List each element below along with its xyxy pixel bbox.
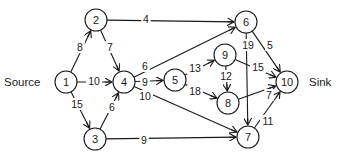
edge-capacity-label: 5 bbox=[267, 39, 273, 51]
edge-capacity-label: 18 bbox=[189, 85, 201, 97]
edge-2-to-6 bbox=[107, 20, 234, 22]
edge-capacity-label: 9 bbox=[141, 134, 147, 146]
node-10: 10 bbox=[276, 71, 298, 93]
edge-capacity-label: 13 bbox=[189, 62, 201, 74]
edge-capacity-label: 15 bbox=[71, 98, 83, 110]
edge-capacity-label: 6 bbox=[109, 101, 115, 113]
node-label: 8 bbox=[225, 97, 231, 109]
source-label: Source bbox=[4, 76, 40, 88]
node-label: 2 bbox=[93, 14, 99, 26]
edge-capacity-label: 10 bbox=[88, 75, 100, 87]
edge-capacity-label: 7 bbox=[107, 41, 113, 53]
node-label: 3 bbox=[92, 133, 98, 145]
edge-capacity-label: 19 bbox=[242, 39, 254, 51]
node-6: 6 bbox=[235, 11, 257, 33]
node-2: 2 bbox=[85, 9, 107, 31]
flow-network-diagram: 810154769691013185191512711 12345678910 … bbox=[0, 0, 362, 158]
node-7: 7 bbox=[237, 126, 259, 148]
edge-capacity-label: 12 bbox=[220, 70, 232, 82]
edge-capacity-label: 4 bbox=[143, 13, 149, 25]
edge-capacity-label: 7 bbox=[266, 89, 272, 101]
node-1: 1 bbox=[55, 71, 77, 93]
node-5: 5 bbox=[164, 69, 186, 91]
sink-label: Sink bbox=[309, 76, 332, 88]
edge-capacity-label: 6 bbox=[142, 60, 148, 72]
edge-capacity-label: 11 bbox=[263, 115, 274, 127]
edge-capacity-label: 15 bbox=[252, 61, 264, 73]
node-8: 8 bbox=[217, 92, 239, 114]
node-label: 4 bbox=[121, 76, 127, 88]
node-label: 1 bbox=[63, 76, 69, 88]
edge-capacity-label: 8 bbox=[77, 41, 83, 53]
node-label: 10 bbox=[281, 76, 293, 88]
node-label: 7 bbox=[245, 131, 251, 143]
edge-3-to-7 bbox=[106, 137, 236, 139]
node-3: 3 bbox=[84, 128, 106, 150]
edge-capacity-label: 9 bbox=[142, 76, 148, 88]
node-label: 6 bbox=[243, 16, 249, 28]
node-label: 5 bbox=[172, 74, 178, 86]
edge-capacity-label: 10 bbox=[139, 90, 151, 102]
node-label: 9 bbox=[222, 49, 228, 61]
node-4: 4 bbox=[113, 71, 135, 93]
node-9: 9 bbox=[214, 44, 236, 66]
